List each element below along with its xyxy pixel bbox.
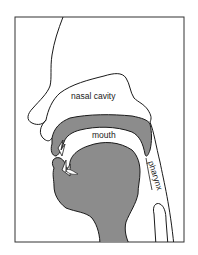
label-mouth: mouth (92, 130, 116, 140)
label-nasal-cavity: nasal cavity (71, 91, 116, 101)
vocal-tract-diagram: nasal cavity mouth pharynx (0, 0, 198, 255)
